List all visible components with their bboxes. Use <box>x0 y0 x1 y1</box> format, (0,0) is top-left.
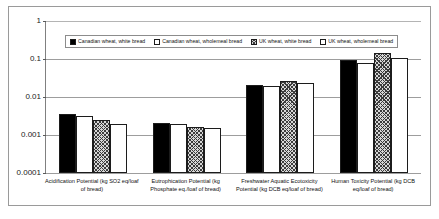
chart-legend: Canadian wheat, white breadCanadian whea… <box>65 35 398 48</box>
y-axis-tick-label: 0.0001 <box>17 169 41 177</box>
bar <box>297 83 314 173</box>
bar <box>76 116 93 173</box>
chart-container: 10.10.010.0010.0001 Canadian wheat, whit… <box>8 6 431 206</box>
x-axis-labels: Acidification Potential (kg SO2 eq/loaf … <box>45 177 421 205</box>
x-axis-category-label: Freshwater Aquatic Ecotoxicity Potential… <box>233 177 327 194</box>
legend-item: UK wheat, wholemeal bread <box>320 39 393 45</box>
y-axis-tick-label: 1 <box>37 17 41 25</box>
bar <box>374 53 391 173</box>
bar <box>59 114 76 173</box>
bar <box>357 63 374 173</box>
x-axis-category-label: Human Toxicity Potential (kg DCB eq/loaf… <box>326 177 420 194</box>
legend-label: UK wheat, wholemeal bread <box>328 39 393 44</box>
x-axis-category-label: Acidification Potential (kg SO2 eq/loaf … <box>45 177 139 194</box>
legend-item: Canadian wheat, wholemeal bread <box>154 39 242 45</box>
bar <box>110 124 127 173</box>
bar <box>280 81 297 173</box>
bar <box>246 85 263 173</box>
y-tick-mark <box>43 173 46 174</box>
legend-label: Canadian wheat, white bread <box>78 39 145 44</box>
bar <box>204 128 221 173</box>
bar <box>391 58 408 173</box>
gridline-0.0001 <box>46 173 421 174</box>
legend-swatch-icon <box>320 39 326 45</box>
legend-item: UK wheat, white bread <box>251 39 311 45</box>
legend-label: UK wheat, white bread <box>259 39 311 44</box>
y-axis-tick-label: 0.001 <box>21 131 41 139</box>
legend-swatch-icon <box>251 39 257 45</box>
y-axis-tick-label: 0.01 <box>25 93 41 101</box>
legend-label: Canadian wheat, wholemeal bread <box>162 39 242 44</box>
y-axis-tick-label: 0.1 <box>30 55 41 63</box>
legend-item: Canadian wheat, white bread <box>70 39 145 45</box>
legend-swatch-icon <box>154 39 160 45</box>
legend-swatch-icon <box>70 39 76 45</box>
bar <box>187 127 204 173</box>
x-axis-category-label: Eutrophication Potential (kg Phosphate e… <box>139 177 233 194</box>
bar <box>153 123 170 173</box>
bar <box>170 124 187 173</box>
bar <box>263 86 280 173</box>
bar <box>340 60 357 173</box>
bar <box>93 120 110 173</box>
